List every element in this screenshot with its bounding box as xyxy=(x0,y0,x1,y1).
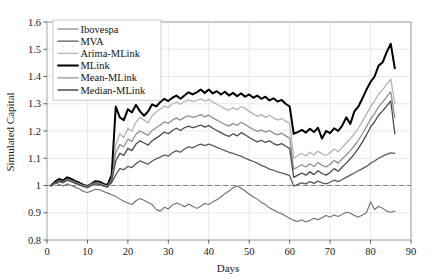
chart-figure: 0.80.911.11.21.31.41.51.6 01020304050607… xyxy=(0,0,433,278)
x-tick-label: 90 xyxy=(406,246,417,257)
legend-label-median-mlink: Median-MLink xyxy=(81,85,146,96)
x-tick-label: 20 xyxy=(123,246,134,257)
x-tick-label: 30 xyxy=(163,246,174,257)
x-tick-label: 40 xyxy=(204,246,215,257)
legend-label-mean-mlink: Mean-MLink xyxy=(81,72,138,83)
y-axis-title: Simulated Capital xyxy=(4,92,16,171)
y-tick-label: 1.6 xyxy=(28,17,41,28)
simulated-capital-line-chart: 0.80.911.11.21.31.41.51.6 01020304050607… xyxy=(0,0,433,278)
y-tick-label: 0.9 xyxy=(28,207,41,218)
y-tick-label: 1.3 xyxy=(28,98,41,109)
legend-label-mlink: MLink xyxy=(81,60,111,71)
legend-label-ibovespa: Ibovespa xyxy=(81,24,119,35)
x-axis-title: Days xyxy=(217,262,240,274)
y-tick-label: 1.5 xyxy=(28,44,41,55)
x-tick-label: 0 xyxy=(44,246,49,257)
x-tick-label: 70 xyxy=(325,246,336,257)
y-axis-tick-labels: 0.80.911.11.21.31.41.51.6 xyxy=(28,17,42,246)
legend-label-mva: MVA xyxy=(81,36,105,47)
y-tick-label: 1 xyxy=(36,180,41,191)
x-tick-label: 60 xyxy=(284,246,295,257)
x-tick-label: 80 xyxy=(365,246,376,257)
y-tick-label: 1.1 xyxy=(28,153,41,164)
legend-label-arima-mlink: Arima-MLink xyxy=(81,48,141,59)
x-tick-label: 10 xyxy=(82,246,93,257)
chart-legend: IbovespaMVAArima-MLinkMLinkMean-MLinkMed… xyxy=(53,20,161,100)
y-tick-label: 1.4 xyxy=(28,71,42,82)
y-tick-label: 0.8 xyxy=(28,235,41,246)
y-tick-label: 1.2 xyxy=(28,126,41,137)
x-tick-label: 50 xyxy=(244,246,255,257)
